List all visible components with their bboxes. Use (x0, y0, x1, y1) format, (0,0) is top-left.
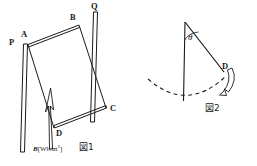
swing-arc (148, 76, 226, 95)
field-unit-open: [Wb/m (38, 145, 58, 153)
loop-abcd (28, 25, 107, 128)
label-point-b: B (70, 13, 76, 22)
magnetic-field-arrow (46, 88, 54, 149)
label-point-a: A (21, 30, 27, 39)
figures-drawing (0, 0, 257, 166)
label-point-d: D (56, 129, 62, 138)
label-pendulum-bob-d: D (222, 62, 228, 71)
pendulum-rod (185, 22, 224, 72)
label-angle-theta: θ (188, 33, 192, 42)
magnetic-field-label: B[Wb/m2] (33, 144, 62, 153)
field-unit-close: ] (60, 145, 62, 153)
rail-p (21, 44, 28, 152)
label-point-c: C (110, 104, 116, 113)
label-point-p: P (9, 38, 14, 47)
figure-sheet: P A B Q C D B[Wb/m2] 図1 θ D 図2 (0, 0, 257, 166)
figure1-caption: 図1 (79, 143, 94, 152)
figure2-caption: 図2 (205, 104, 220, 113)
figure1-drawing (21, 12, 107, 152)
rail-q (91, 12, 98, 122)
motion-arrow (220, 68, 235, 96)
label-point-q: Q (91, 2, 98, 11)
pendulum-vertical-line (184, 22, 186, 101)
